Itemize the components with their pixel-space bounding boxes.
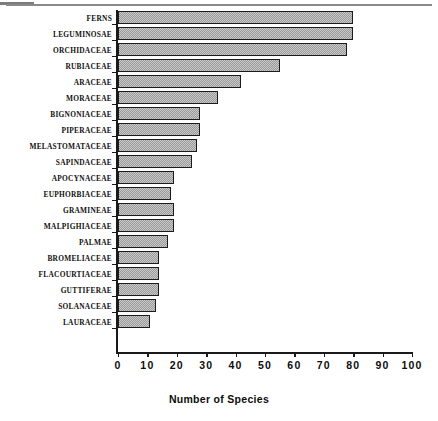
bar-row: GRAMINEAE xyxy=(0,203,438,219)
category-label: ARACEAE xyxy=(0,76,112,89)
bar-row: FERNS xyxy=(0,11,438,27)
x-axis-tick xyxy=(265,352,266,357)
bar xyxy=(118,59,280,72)
bar xyxy=(118,11,353,24)
bar xyxy=(118,27,353,40)
bar-row: ORCHIDACEAE xyxy=(0,43,438,59)
y-axis-tick xyxy=(112,88,117,89)
bar xyxy=(118,315,150,328)
y-axis-tick xyxy=(112,40,117,41)
bar-row: SOLANACEAE xyxy=(0,299,438,315)
bar-row: PIPERACEAE xyxy=(0,123,438,139)
category-label: GRAMINEAE xyxy=(0,204,112,217)
bar-row: RUBIACEAE xyxy=(0,59,438,75)
category-label: BROMELIACEAE xyxy=(0,252,112,265)
bar xyxy=(118,107,200,120)
bar-row: MALPIGHIACEAE xyxy=(0,219,438,235)
bar-row: EUPHORBIACEAE xyxy=(0,187,438,203)
bar-row: LEGUMINOSAE xyxy=(0,27,438,43)
category-label: GUTTIFERAE xyxy=(0,284,112,297)
y-axis-tick xyxy=(112,72,117,73)
x-axis-tick xyxy=(236,352,237,357)
x-axis-tick xyxy=(383,352,384,357)
bar-row: SAPINDACEAE xyxy=(0,155,438,171)
x-axis-title: Number of Species xyxy=(0,393,438,405)
y-axis-tick xyxy=(112,184,117,185)
x-axis-ticks: 0102030405060708090100 xyxy=(0,352,438,382)
category-label: LEGUMINOSAE xyxy=(0,28,112,41)
category-label: LAURACEAE xyxy=(0,316,112,329)
bar-rows: FERNSLEGUMINOSAEORCHIDACEAERUBIACEAEARAC… xyxy=(0,11,438,331)
bar-row: BROMELIACEAE xyxy=(0,251,438,267)
x-axis-tick xyxy=(294,352,295,357)
bar xyxy=(118,203,174,216)
y-axis-tick xyxy=(112,312,117,313)
category-label: SOLANACEAE xyxy=(0,300,112,313)
x-axis-tick-label: 100 xyxy=(392,359,432,371)
bar-row: BIGNONIACEAE xyxy=(0,107,438,123)
bar-row: LAURACEAE xyxy=(0,315,438,331)
y-axis-tick xyxy=(112,168,117,169)
y-axis-tick xyxy=(112,104,117,105)
y-axis-tick xyxy=(112,152,117,153)
bar xyxy=(118,155,192,168)
y-axis-tick xyxy=(112,56,117,57)
category-label: FERNS xyxy=(0,12,112,25)
y-axis-tick xyxy=(112,296,117,297)
category-label: APOCYNACEAE xyxy=(0,172,112,185)
x-axis-tick xyxy=(324,352,325,357)
y-axis-tick xyxy=(112,120,117,121)
bar xyxy=(118,219,174,232)
y-axis-tick xyxy=(112,248,117,249)
y-axis-tick xyxy=(112,232,117,233)
category-label: PALMAE xyxy=(0,236,112,249)
bar xyxy=(118,283,159,296)
y-axis-tick xyxy=(112,24,117,25)
bar xyxy=(118,123,200,136)
category-label: ORCHIDACEAE xyxy=(0,44,112,57)
x-axis-tick xyxy=(147,352,148,357)
bar-row: MELASTOMATACEAE xyxy=(0,139,438,155)
bar xyxy=(118,251,159,264)
y-axis-tick xyxy=(112,136,117,137)
bar-row: APOCYNACEAE xyxy=(0,171,438,187)
category-label: MALPIGHIACEAE xyxy=(0,220,112,233)
y-axis-tick xyxy=(112,264,117,265)
x-axis-tick xyxy=(206,352,207,357)
x-axis-tick xyxy=(177,352,178,357)
category-label: MORACEAE xyxy=(0,92,112,105)
bar xyxy=(118,139,197,152)
y-axis-tick xyxy=(112,280,117,281)
bar-row: MORACEAE xyxy=(0,91,438,107)
category-label: BIGNONIACEAE xyxy=(0,108,112,121)
bar xyxy=(118,171,174,184)
bar xyxy=(118,75,241,88)
y-axis-tick xyxy=(112,200,117,201)
y-axis-tick xyxy=(112,216,117,217)
figure-container: FERNSLEGUMINOSAEORCHIDACEAERUBIACEAEARAC… xyxy=(0,0,438,421)
x-axis-tick xyxy=(353,352,354,357)
category-label: MELASTOMATACEAE xyxy=(0,140,112,153)
category-label: FLACOURTIACEAE xyxy=(0,268,112,281)
bar xyxy=(118,91,218,104)
bar xyxy=(118,187,171,200)
category-label: PIPERACEAE xyxy=(0,124,112,137)
bar xyxy=(118,299,156,312)
category-label: RUBIACEAE xyxy=(0,60,112,73)
bar xyxy=(118,267,159,280)
x-axis-tick xyxy=(412,352,413,357)
bar-row: GUTTIFERAE xyxy=(0,283,438,299)
bar xyxy=(118,43,347,56)
bar-row: PALMAE xyxy=(0,235,438,251)
category-label: SAPINDACEAE xyxy=(0,156,112,169)
category-label: EUPHORBIACEAE xyxy=(0,188,112,201)
x-axis-tick xyxy=(118,352,119,357)
y-axis-tick xyxy=(112,328,117,329)
bar-row: FLACOURTIACEAE xyxy=(0,267,438,283)
bar xyxy=(118,235,168,248)
bar-chart-plot: FERNSLEGUMINOSAEORCHIDACEAERUBIACEAEARAC… xyxy=(0,0,438,421)
bar-row: ARACEAE xyxy=(0,75,438,91)
